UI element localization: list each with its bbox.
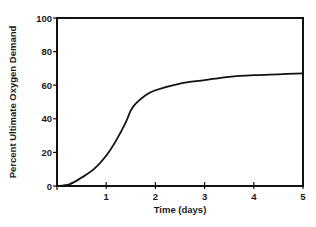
y-tick-label: 0 <box>47 181 52 192</box>
y-tick-label: 60 <box>41 80 52 91</box>
y-axis: 020406080100 <box>36 13 57 192</box>
y-tick-label: 100 <box>36 13 52 24</box>
line-chart: 020406080100 12345 Time (days) Percent U… <box>0 0 316 227</box>
y-tick-label: 80 <box>41 46 52 57</box>
y-tick-label: 40 <box>41 113 52 124</box>
y-tick-label: 20 <box>41 147 52 158</box>
x-axis-title: Time (days) <box>154 204 207 215</box>
x-tick-label: 2 <box>153 191 158 202</box>
x-tick-label: 4 <box>251 191 257 202</box>
x-tick-label: 5 <box>300 191 306 202</box>
y-axis-title: Percent Ultimate Oxygen Demand <box>7 26 18 179</box>
x-tick-label: 1 <box>104 191 110 202</box>
oxygen-demand-curve <box>57 73 303 186</box>
x-tick-label: 3 <box>202 191 207 202</box>
plot-frame <box>57 18 303 186</box>
